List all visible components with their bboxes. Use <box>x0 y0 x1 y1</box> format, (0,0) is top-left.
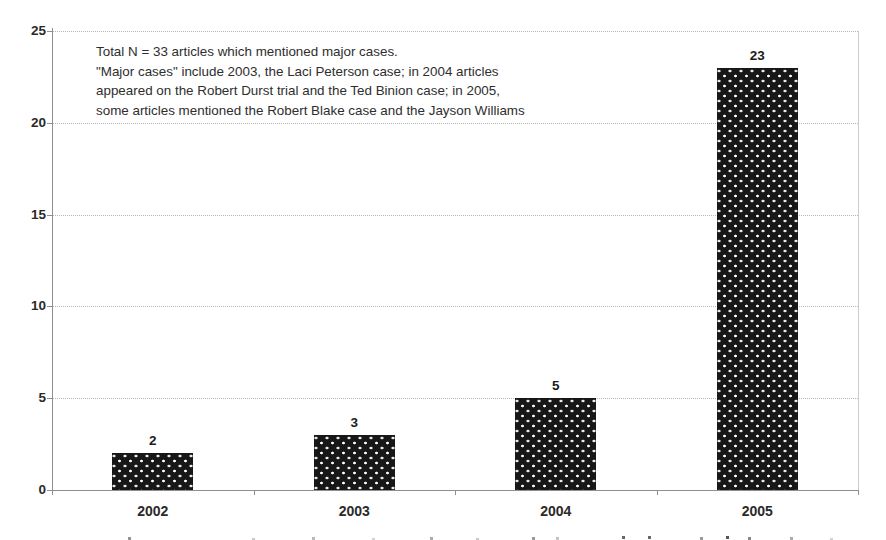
x-axis-tick-4 <box>858 490 859 495</box>
y-axis-label-15: 15 <box>8 207 46 223</box>
annotation-line-2: "Major cases" include 2003, the Laci Pet… <box>96 62 525 82</box>
chart-annotation: Total N = 33 articles which mentioned ma… <box>96 42 525 120</box>
x-axis-label-2003: 2003 <box>309 503 399 519</box>
x-axis-tick-3 <box>657 490 658 495</box>
gridline-25 <box>52 31 858 32</box>
x-axis-tick-2 <box>455 490 456 495</box>
y-axis-line <box>52 28 53 491</box>
y-axis-label-25: 25 <box>8 23 46 39</box>
y-axis-label-0: 0 <box>8 482 46 498</box>
y-axis-label-20: 20 <box>8 115 46 131</box>
bar-value-label-2002: 2 <box>123 433 183 449</box>
annotation-line-3: appeared on the Robert Durst trial and t… <box>96 81 525 101</box>
bar-2003 <box>314 435 395 490</box>
x-axis-label-2005: 2005 <box>712 503 802 519</box>
bar-value-label-2004: 5 <box>526 378 586 394</box>
annotation-line-1: Total N = 33 articles which mentioned ma… <box>96 42 525 62</box>
scanned-bar-chart-figure: Total N = 33 articles which mentioned ma… <box>0 0 886 540</box>
x-axis-label-2002: 2002 <box>108 503 198 519</box>
x-axis-tick-0 <box>52 490 53 495</box>
bar-2004 <box>515 398 596 490</box>
bar-value-label-2005: 23 <box>727 48 787 64</box>
y-axis-label-5: 5 <box>8 390 46 406</box>
x-axis-tick-1 <box>254 490 255 495</box>
bar-value-label-2003: 3 <box>324 415 384 431</box>
cut-off-caption-fragment <box>0 533 3 536</box>
bar-2002 <box>112 453 193 490</box>
x-axis-label-2004: 2004 <box>511 503 601 519</box>
bar-2005 <box>717 68 798 490</box>
plot-right-border <box>858 31 859 490</box>
y-axis-label-10: 10 <box>8 298 46 314</box>
annotation-line-4: some articles mentioned the Robert Blake… <box>96 101 525 121</box>
